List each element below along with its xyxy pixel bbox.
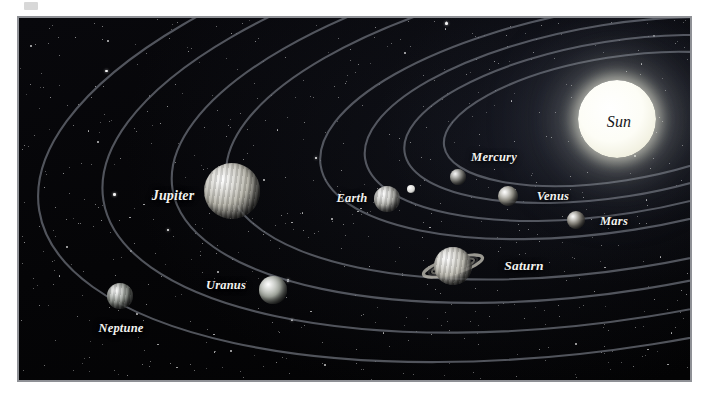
label-jupiter: Jupiter <box>152 188 195 204</box>
planet-mercury <box>450 169 466 185</box>
page-top-artifact-mark <box>24 2 38 10</box>
label-venus: Venus <box>537 189 569 204</box>
planet-mars <box>567 211 585 229</box>
planet-venus <box>498 186 518 206</box>
solar-system-figure: SunMercuryVenusEarthMarsJupiterSaturnUra… <box>17 16 692 382</box>
sun-label: Sun <box>607 113 632 131</box>
planet-uranus <box>259 276 287 304</box>
moon-body <box>407 185 415 193</box>
label-neptune: Neptune <box>98 321 143 336</box>
planet-neptune <box>107 283 133 309</box>
label-mars: Mars <box>600 214 628 229</box>
label-mercury: Mercury <box>471 150 517 165</box>
planet-jupiter <box>204 163 260 219</box>
label-earth: Earth <box>337 191 368 206</box>
label-saturn: Saturn <box>504 258 543 274</box>
figure-page: SunMercuryVenusEarthMarsJupiterSaturnUra… <box>0 0 708 406</box>
planet-earth <box>374 186 400 212</box>
label-uranus: Uranus <box>206 278 246 293</box>
planet-saturn <box>434 247 472 285</box>
